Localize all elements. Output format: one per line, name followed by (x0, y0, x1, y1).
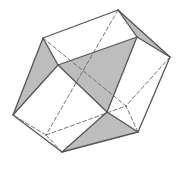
visible-edge (137, 37, 170, 57)
visible-edge (118, 10, 137, 37)
shaded-faces (13, 10, 170, 152)
hidden-edge (126, 57, 170, 106)
shaded-face (58, 37, 137, 112)
shaded-face (13, 38, 58, 115)
visible-edge (43, 10, 118, 38)
cuboctahedron-diagram (0, 0, 178, 170)
visible-edge (138, 57, 170, 132)
